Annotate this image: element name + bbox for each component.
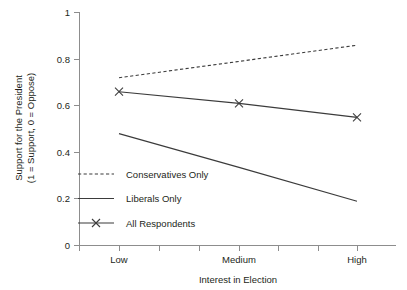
y-tick-label-0.8: 0.8 — [57, 54, 70, 65]
legend-item-all-respondents: All Respondents — [78, 218, 195, 229]
chart-container: 1 0.8 0.6 0.4 0.2 0 Low Medium High Inte… — [0, 0, 407, 290]
x-axis-title: Interest in Election — [199, 274, 277, 285]
series-line-liberals-only — [119, 134, 357, 202]
y-tick-label-0: 0 — [65, 240, 70, 251]
y-axis-ticks — [74, 13, 80, 246]
legend-item-conservatives-only: Conservatives Only — [78, 169, 209, 180]
series-line-conservatives-only — [119, 45, 357, 77]
x-tick-label-low: Low — [110, 254, 128, 265]
legend-label-conservatives-only: Conservatives Only — [126, 169, 209, 180]
y-tick-label-0.2: 0.2 — [57, 193, 70, 204]
legend-item-liberals-only: Liberals Only — [78, 193, 182, 204]
y-axis-title-line1: Support for the President — [13, 75, 24, 181]
y-tick-label-0.4: 0.4 — [57, 147, 70, 158]
legend-label-liberals-only: Liberals Only — [126, 193, 182, 204]
series-markers-all-respondents — [115, 88, 361, 122]
x-axis-ticks — [80, 246, 358, 252]
chart-legend: Conservatives Only Liberals Only All Res… — [78, 169, 209, 229]
y-axis-title-line2: (1 = Support, 0 = Oppose) — [25, 73, 36, 183]
line-chart: 1 0.8 0.6 0.4 0.2 0 Low Medium High Inte… — [0, 0, 407, 290]
y-tick-label-1: 1 — [65, 7, 70, 18]
y-tick-label-0.6: 0.6 — [57, 100, 70, 111]
legend-label-all-respondents: All Respondents — [126, 218, 195, 229]
x-tick-label-medium: Medium — [222, 254, 256, 265]
x-tick-label-high: High — [347, 254, 367, 265]
